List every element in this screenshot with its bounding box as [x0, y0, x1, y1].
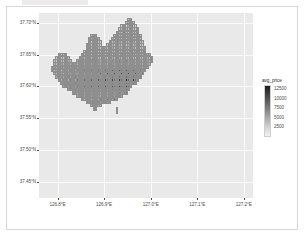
map-cell: [139, 75, 142, 78]
y-axis-tick-mark: [37, 182, 39, 183]
map-cell: [141, 72, 144, 75]
y-axis-tick-label: 37.65°N: [2, 52, 36, 57]
legend-tick-mark: [271, 99, 273, 100]
y-axis-tick-label: 37.55°N: [2, 115, 36, 120]
legend-tick-mark: [271, 118, 273, 119]
y-axis-tick-mark: [37, 150, 39, 151]
x-axis-tick-label: 126.8°E: [43, 202, 73, 207]
map-cell: [130, 85, 133, 88]
choropleth-map-layer: [39, 13, 253, 198]
map-cell: [99, 104, 102, 107]
y-axis-tick-mark: [37, 86, 39, 87]
plot-panel: [39, 13, 253, 198]
legend-tick-label: 10000: [274, 96, 287, 101]
y-axis-tick-label: 37.70°N: [2, 20, 36, 25]
x-axis-tick-label: 126.9°E: [89, 202, 119, 207]
map-cell: [144, 69, 147, 72]
y-axis-tick-mark: [37, 118, 39, 119]
legend-tick-label: 7500: [274, 105, 284, 110]
legend-tick-mark: [271, 108, 273, 109]
x-axis-tick-mark: [151, 198, 152, 200]
x-axis-tick-mark: [244, 198, 245, 200]
legend-tick-label: 12500: [274, 86, 287, 91]
legend-tick-mark: [271, 89, 273, 90]
map-cell: [120, 94, 123, 97]
legend-tick-label: 2500: [274, 124, 284, 129]
y-axis-tick-label: 37.60°N: [2, 83, 36, 88]
map-cell: [146, 66, 149, 69]
x-axis-tick-mark: [104, 198, 105, 200]
legend-gradient-bar: [264, 85, 271, 137]
legend-tick-mark: [271, 127, 273, 128]
map-cell: [151, 59, 154, 62]
legend-title: avg_price: [262, 78, 302, 83]
y-axis-tick-mark: [37, 55, 39, 56]
map-cell: [109, 101, 112, 104]
x-axis-tick-label: 127.0°E: [136, 202, 166, 207]
x-axis-tick-label: 127.2°E: [229, 202, 259, 207]
y-axis-tick-label: 37.45°N: [2, 179, 36, 184]
legend: avg_price 1250010000750050002500: [262, 78, 302, 137]
map-cell: [125, 91, 128, 94]
map-cell: [127, 88, 130, 91]
legend-body: 1250010000750050002500: [262, 85, 302, 137]
x-axis-tick-mark: [197, 198, 198, 200]
x-axis-tick-mark: [58, 198, 59, 200]
map-cell: [148, 62, 151, 65]
map-cell: [95, 107, 98, 110]
figure-root: 37.70°N37.65°N37.60°N37.55°N37.50°N37.45…: [0, 0, 306, 238]
map-cell: [137, 78, 140, 81]
map-cell: [134, 82, 137, 85]
legend-tick-label: 5000: [274, 115, 284, 120]
y-axis-tick-mark: [37, 23, 39, 24]
top-edge-artifact: [22, 0, 88, 5]
map-cell: [116, 98, 119, 101]
map-cell: [116, 110, 119, 113]
y-axis-tick-label: 37.50°N: [2, 147, 36, 152]
x-axis-tick-label: 127.1°E: [182, 202, 212, 207]
